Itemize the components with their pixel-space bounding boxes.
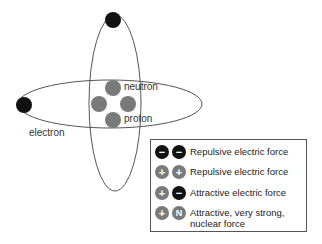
nucleon-bottom — [105, 112, 121, 128]
legend-row: + N Attractive, very strong, nuclear for… — [155, 206, 300, 229]
legend-row: + − Attractive electric force — [155, 186, 286, 200]
neutron-icon: N — [172, 206, 186, 220]
nucleon-top — [105, 80, 121, 96]
legend-row: − − Repulsive electric force — [155, 145, 288, 159]
positive-charge-icon: + — [172, 165, 186, 179]
force-legend: − − Repulsive electric force + + Repulsi… — [150, 139, 307, 232]
proton-label: proton — [124, 114, 152, 124]
electron-label: electron — [29, 128, 65, 138]
legend-row: + + Repulsive electric force — [155, 165, 288, 179]
legend-text: Attractive electric force — [190, 187, 286, 198]
positive-charge-icon: + — [155, 165, 169, 179]
neutron-label: neutron — [124, 82, 158, 92]
legend-text: Repulsive electric force — [190, 166, 288, 177]
nucleon-left — [91, 96, 107, 112]
negative-charge-icon: − — [172, 145, 186, 159]
positive-charge-icon: + — [155, 206, 169, 220]
electron-left — [16, 97, 32, 113]
nucleon-right — [120, 96, 136, 112]
legend-text: Attractive, very strong, nuclear force — [190, 207, 300, 229]
electron-top — [105, 12, 121, 28]
positive-charge-icon: + — [155, 186, 169, 200]
legend-text: Repulsive electric force — [190, 146, 288, 157]
negative-charge-icon: − — [155, 145, 169, 159]
negative-charge-icon: − — [172, 186, 186, 200]
